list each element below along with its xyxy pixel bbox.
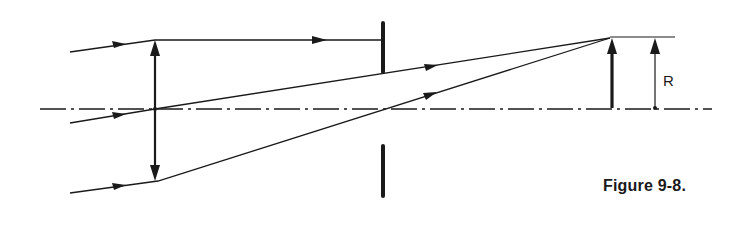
chief-ray [70,38,610,123]
lens-top-arrow-icon [150,40,160,56]
image-arrow [607,38,617,108]
ray-arrow-icon [112,112,126,119]
ray-arrow-icon [312,36,327,44]
dimension-r-label: R [663,72,674,89]
upper-ray [70,36,383,52]
ray-arrow-icon [112,183,126,190]
ray-arrow-icon [424,64,438,71]
lower-ray [70,38,610,193]
dimension-arrowhead-icon [650,38,660,54]
lens [150,40,160,181]
image-arrowhead-icon [607,38,617,54]
dimension-base-point [653,106,657,110]
dimension-r-arrow: R [650,38,674,110]
ray-arrow-icon [423,92,437,100]
lens-bottom-arrow-icon [150,165,160,181]
figure-caption: Figure 9-8. [603,177,686,195]
ray-arrow-icon [112,41,126,48]
